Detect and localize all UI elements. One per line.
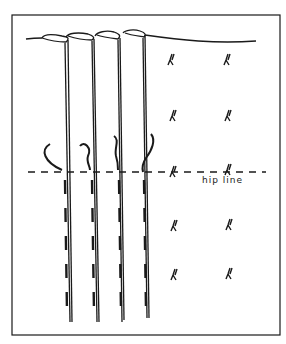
tack-icon — [170, 110, 176, 121]
tailor-tacks — [168, 54, 232, 280]
tack-icon — [225, 110, 231, 121]
tack-icon — [226, 268, 232, 279]
pleat-3 — [95, 31, 124, 322]
tack-icon — [224, 54, 230, 65]
pleat-1 — [42, 35, 72, 322]
tack-icon — [226, 219, 232, 230]
hip-line-label: hip line — [202, 175, 243, 185]
pleat-folds — [42, 30, 149, 322]
pleats-diagram: hip line — [0, 0, 286, 344]
tack-icon — [171, 220, 177, 231]
tack-icon — [171, 269, 177, 280]
pleat-stitch-lines — [65, 180, 146, 312]
tack-icon — [168, 54, 174, 65]
tack-icon — [225, 164, 231, 175]
hip-curves — [45, 134, 154, 172]
